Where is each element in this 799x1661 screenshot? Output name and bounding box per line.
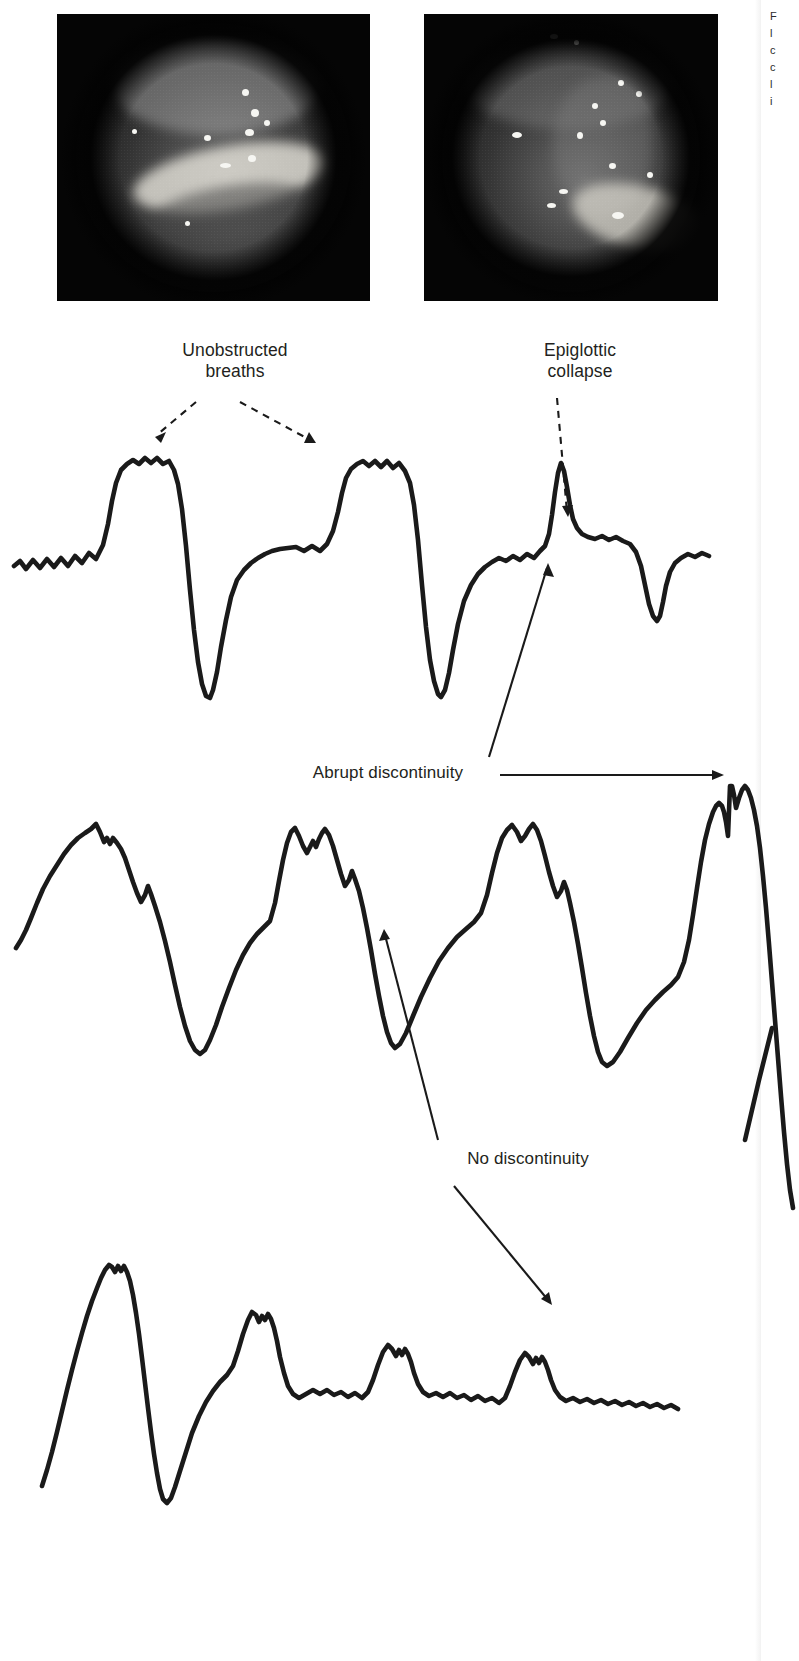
airflow-waveform-traces xyxy=(0,0,770,1661)
caption-line-3: c xyxy=(770,42,799,59)
caption-line-5: l xyxy=(770,76,799,93)
caption-sliver-cropped: F l c c l i xyxy=(770,8,799,113)
caption-line-2: l xyxy=(770,25,799,42)
trace-3-no-discontinuity xyxy=(42,1186,678,1503)
arrowhead xyxy=(379,929,390,941)
arrowhead xyxy=(543,563,554,577)
pointer-unobstructed-breath-1 xyxy=(158,402,196,434)
arrowhead xyxy=(304,432,316,443)
figure-page: Unobstructed breaths Epiglottic collapse… xyxy=(0,0,799,1661)
caption-line-4: c xyxy=(770,59,799,76)
pointer-epiglottic-collapse xyxy=(557,398,567,512)
caption-line-6: i xyxy=(770,93,799,110)
trace-2-recovery xyxy=(745,1028,772,1140)
trace-1-unobstructed-then-epiglottic-collapse xyxy=(14,398,709,757)
arrowhead xyxy=(155,432,166,443)
pointer-abrupt-discontinuity-trace1 xyxy=(489,568,547,757)
pointer-unobstructed-breath-2 xyxy=(240,402,312,441)
caption-line-1: F xyxy=(770,8,799,25)
trace-2-abrupt-discontinuity xyxy=(16,770,793,1208)
pointer-no-discontinuity-trace2 xyxy=(385,935,438,1140)
arrowhead xyxy=(712,770,724,780)
pointer-no-discontinuity-trace3 xyxy=(454,1186,548,1300)
